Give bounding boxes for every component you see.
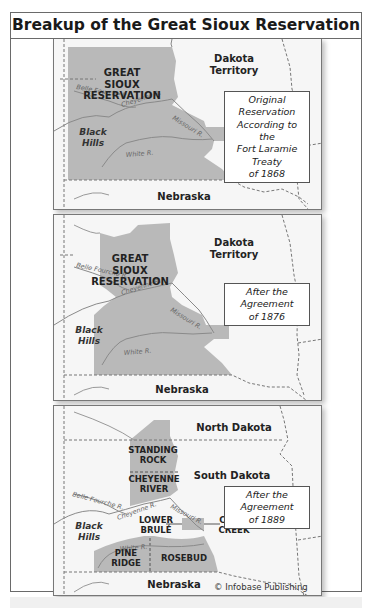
map-caption-1876: After the Agreementof 1876 xyxy=(224,283,310,326)
standing-rock-label: STANDINGROCK xyxy=(128,446,178,466)
north-dakota-label: North Dakota xyxy=(184,422,284,434)
black-hills-label: BlackHills xyxy=(74,521,104,543)
dakota-territory-label: DakotaTerritory xyxy=(204,237,264,260)
map-caption-1868: Original ReservationAccording to theFort… xyxy=(224,91,310,183)
dakota-territory-label: DakotaTerritory xyxy=(204,53,264,76)
cheyenne-river-label: CHEYENNERIVER xyxy=(126,475,182,495)
svg-text:Belle Fourche R.: Belle Fourche R. xyxy=(71,490,124,511)
lower-brule-label: LOWERBRULÉ xyxy=(138,516,174,536)
map-caption-1889: After the Agreementof 1889 xyxy=(224,486,310,529)
pine-ridge-label: PINERIDGE xyxy=(106,549,146,569)
black-hills-label: BlackHills xyxy=(74,325,104,347)
figure-title: Breakup of the Great Sioux Reservation xyxy=(10,12,362,39)
nebraska-label: Nebraska xyxy=(144,191,224,203)
black-hills-label: BlackHills xyxy=(78,127,108,149)
rosebud-label: ROSEBUD xyxy=(154,554,214,564)
bottom-strip xyxy=(10,597,362,608)
great-sioux-reservation-label: GREATSIOUXRESERVATION xyxy=(90,253,170,288)
map-panel-1868: Belle Fourche R. Cheyenne R. Missouri R.… xyxy=(53,38,322,210)
nebraska-label: Nebraska xyxy=(142,384,222,396)
map-panel-1876: Belle Fourche R. Cheyenne R. Missouri R.… xyxy=(53,214,322,401)
great-sioux-reservation-label: GREATSIOUXRESERVATION xyxy=(82,67,162,102)
nebraska-label: Nebraska xyxy=(134,579,214,591)
map-panel-1889: Belle Fourche R. Cheyenne R. Missouri R.… xyxy=(53,405,322,596)
south-dakota-label: South Dakota xyxy=(182,470,282,482)
copyright-credit: © Infobase Publishing xyxy=(214,582,308,592)
